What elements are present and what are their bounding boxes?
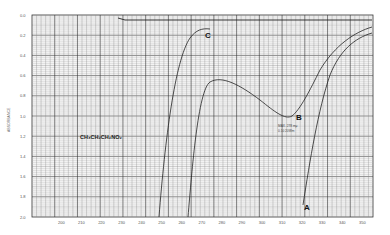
y-axis-ticks: 0.00.20.40.60.81.01.21.41.61.82.0 (20, 13, 26, 220)
absorbance-chart: 0.00.20.40.60.81.01.21.41.61.82.0 200210… (0, 0, 390, 235)
y-tick-label: 1.8 (20, 194, 26, 199)
x-tick-label: 250 (158, 220, 165, 225)
curve-b-label: B (296, 113, 302, 122)
compound-formula: CH₃CH₂CH₂NO₂ (80, 134, 123, 140)
peak-note-1: MAX. 278 mμ (278, 124, 298, 128)
y-tick-label: 0.2 (20, 33, 26, 38)
x-tick-label: 230 (118, 220, 125, 225)
x-tick-label: 350 (359, 220, 366, 225)
y-tick-label: 1.0 (20, 114, 26, 119)
x-tick-label: 220 (98, 220, 105, 225)
x-tick-label: 260 (178, 220, 185, 225)
y-tick-label: 1.6 (20, 174, 26, 179)
curve-c-label: C (205, 31, 211, 40)
x-tick-label: 340 (339, 220, 346, 225)
y-tick-label: 0.8 (20, 93, 26, 98)
x-tick-label: 330 (319, 220, 326, 225)
x-tick-label: 200 (58, 220, 65, 225)
y-tick-label: 0.0 (20, 13, 26, 18)
y-tick-label: 0.6 (20, 73, 26, 78)
y-tick-label: 0.4 (20, 53, 26, 58)
curve-a-label: A (304, 203, 310, 212)
y-tick-label: 1.2 (20, 134, 26, 139)
x-tick-label: 240 (138, 220, 145, 225)
x-tick-label: 290 (239, 220, 246, 225)
peak-note-2: 0.10 20Wm (278, 129, 295, 133)
x-tick-label: 280 (219, 220, 226, 225)
x-tick-label: 210 (78, 220, 85, 225)
x-tick-label: 270 (198, 220, 205, 225)
y-tick-label: 2.0 (20, 215, 26, 220)
chart-grid (32, 15, 373, 217)
y-axis-title: ABSORBANCE (7, 107, 11, 132)
x-tick-label: 300 (259, 220, 266, 225)
x-tick-label: 310 (279, 220, 286, 225)
x-axis-ticks: 2002102202302402502602702802903003103203… (58, 220, 366, 225)
y-tick-label: 1.4 (20, 154, 26, 159)
x-tick-label: 320 (299, 220, 306, 225)
